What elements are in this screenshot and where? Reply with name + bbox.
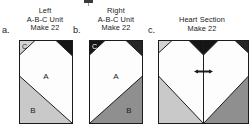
block-b-label-b: B <box>126 106 131 115</box>
block-b-label-a: A <box>113 72 119 81</box>
step-c-letter: c. <box>148 26 155 35</box>
registration-mark-tail-icon <box>88 3 89 6</box>
block-b-right-abc-unit: A B C <box>89 40 143 124</box>
block-b-label-c: C <box>92 43 97 50</box>
step-a-caption: Left A-B-C Unit Make 22 <box>8 7 82 33</box>
block-a-label-b: B <box>30 106 35 115</box>
diagram-canvas: Left A-B-C Unit Make 22 a. A B C Right <box>0 0 251 128</box>
block-a-label-a: A <box>43 72 49 81</box>
block-b-svg: A B C <box>89 40 143 124</box>
block-c-svg <box>158 40 249 124</box>
block-a-svg: A B C <box>19 40 73 124</box>
step-a-caption-line3: Make 22 <box>8 24 82 33</box>
step-b-letter: b. <box>73 26 81 35</box>
block-a-label-c: C <box>22 43 27 50</box>
step-c-caption: Heart Section Make 22 <box>157 16 247 33</box>
block-a-left-abc-unit: A B C <box>19 40 73 124</box>
block-c-heart-section <box>158 40 249 124</box>
step-b-caption-line3: Make 22 <box>79 24 153 33</box>
step-b-caption: Right A-B-C Unit Make 22 <box>79 7 153 33</box>
step-a-letter: a. <box>2 26 10 35</box>
step-c-caption-line3: Make 22 <box>157 25 247 34</box>
